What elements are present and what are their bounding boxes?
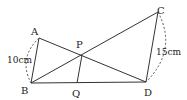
label-point-a: A [30, 26, 39, 37]
measurement-cd: 15cm [156, 47, 181, 57]
segment-ab [31, 38, 39, 83]
label-point-q: Q [72, 88, 80, 99]
label-point-b: B [21, 85, 28, 96]
label-point-d: D [144, 87, 152, 98]
geometry-diagram: A B C D P Q 10cm 15cm [0, 0, 187, 100]
segment-ad [39, 38, 146, 82]
label-point-c: C [157, 5, 165, 16]
segment-bc [31, 12, 158, 83]
label-point-p: P [76, 39, 83, 50]
segment-pq [77, 55, 82, 83]
measurement-ab: 10cm [7, 55, 32, 65]
segment-bd [31, 82, 146, 83]
